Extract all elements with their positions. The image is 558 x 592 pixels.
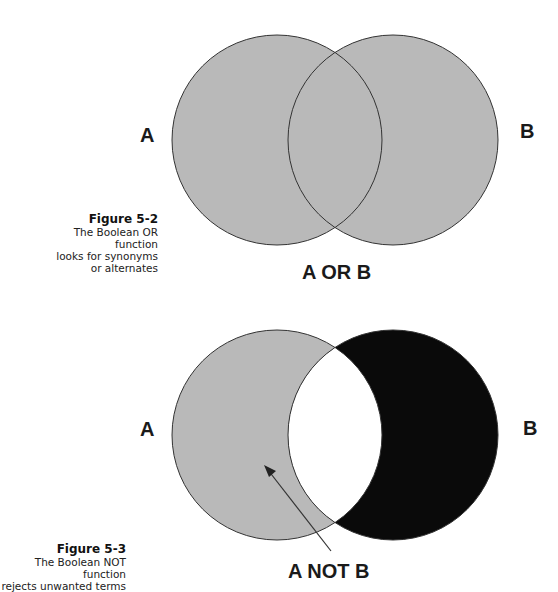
figure-caption: Figure 5-2 The Boolean OR function looks… (28, 212, 158, 274)
figure-caption: Figure 5-3 The Boolean NOT function reje… (0, 542, 126, 592)
caption-line: rejects unwanted terms (0, 580, 126, 592)
operation-label: A OR B (302, 261, 371, 284)
set-b-label: B (523, 417, 537, 440)
operation-label: A NOT B (288, 560, 369, 583)
caption-line: The Boolean NOT function (0, 556, 126, 580)
caption-line: The Boolean OR function (28, 226, 158, 250)
circle-b (288, 35, 498, 245)
set-a-label: A (140, 124, 154, 147)
caption-line: or alternates (28, 262, 158, 274)
figure-number: Figure 5-3 (0, 542, 126, 556)
venn-or-diagram (172, 35, 498, 245)
set-a-label: A (140, 418, 154, 441)
set-b-label: B (520, 120, 534, 143)
venn-not-diagram (172, 330, 498, 551)
caption-line: looks for synonyms (28, 250, 158, 262)
figure-number: Figure 5-2 (28, 212, 158, 226)
